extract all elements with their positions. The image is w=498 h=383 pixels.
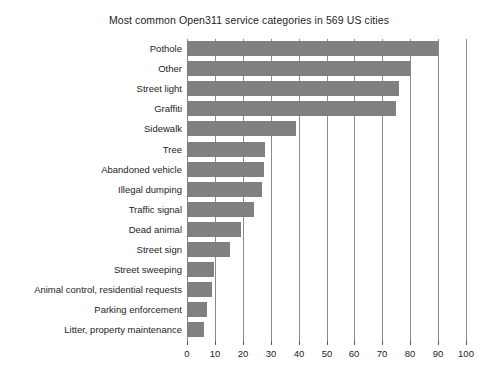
x-axis-tick — [410, 341, 411, 345]
x-axis-tick — [215, 341, 216, 345]
plot-area — [187, 39, 466, 341]
bar — [187, 162, 264, 177]
bar — [187, 81, 399, 96]
x-axis-tick — [299, 341, 300, 345]
y-axis-label: Street light — [0, 81, 182, 96]
y-axis-label: Pothole — [0, 41, 182, 56]
y-axis-category-labels: PotholeOtherStreet lightGraffitiSidewalk… — [0, 39, 182, 341]
x-axis-tick-label: 100 — [446, 348, 486, 359]
y-axis-label: Dead animal — [0, 222, 182, 237]
x-axis-tick — [327, 341, 328, 345]
bar — [187, 202, 254, 217]
bar — [187, 282, 212, 297]
bar — [187, 262, 214, 277]
y-axis-label: Litter, property maintenance — [0, 322, 182, 337]
y-axis-label: Sidewalk — [0, 121, 182, 136]
x-axis-tick — [271, 341, 272, 345]
y-axis-label: Street sweeping — [0, 262, 182, 277]
bar-chart-figure: Most common Open311 service categories i… — [0, 0, 498, 383]
bar — [187, 302, 207, 317]
chart-title: Most common Open311 service categories i… — [0, 14, 498, 26]
bar — [187, 142, 265, 157]
bar — [187, 322, 204, 337]
bar — [187, 61, 410, 76]
y-axis-label: Graffiti — [0, 101, 182, 116]
y-axis-label: Animal control, residential requests — [0, 282, 182, 297]
y-axis-label: Other — [0, 61, 182, 76]
bar — [187, 222, 241, 237]
y-axis-label: Abandoned vehicle — [0, 162, 182, 177]
x-axis: 0102030405060708090100 — [187, 341, 466, 367]
y-axis-label: Street sign — [0, 242, 182, 257]
y-axis-label: Tree — [0, 142, 182, 157]
y-axis-label: Traffic signal — [0, 202, 182, 217]
gridline-100 — [466, 39, 467, 341]
bar — [187, 242, 230, 257]
x-axis-tick — [466, 341, 467, 345]
x-axis-tick — [382, 341, 383, 345]
x-axis-tick — [438, 341, 439, 345]
x-axis-tick — [243, 341, 244, 345]
x-axis-tick — [354, 341, 355, 345]
bar — [187, 101, 396, 116]
bar — [187, 121, 296, 136]
x-axis-tick — [187, 341, 188, 345]
y-axis-label: Illegal dumping — [0, 182, 182, 197]
bar — [187, 182, 262, 197]
bars-layer — [187, 39, 466, 341]
bar — [187, 41, 438, 56]
y-axis-label: Parking enforcement — [0, 302, 182, 317]
